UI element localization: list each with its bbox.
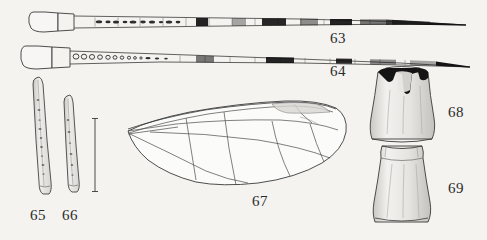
- fig69-body: [373, 146, 430, 222]
- figure-68-segment: [370, 67, 434, 143]
- fig64-scape: [21, 46, 52, 69]
- fig63-scape: [29, 12, 58, 32]
- figure-label-64: 64: [330, 63, 346, 80]
- figure-label-63: 63: [330, 30, 346, 47]
- fig64-pedicel: [52, 47, 70, 68]
- fig63-pedicel: [58, 13, 74, 31]
- figure-69-segment: [373, 146, 430, 222]
- figure-label-67: 67: [252, 193, 268, 210]
- figure-label-69: 69: [448, 180, 464, 197]
- figure-label-65: 65: [30, 207, 46, 224]
- figure-label-68: 68: [448, 104, 464, 121]
- figure-label-66: 66: [62, 207, 78, 224]
- figure-plate: [0, 0, 487, 240]
